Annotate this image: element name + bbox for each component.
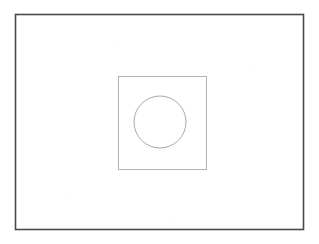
figure-canvas bbox=[0, 0, 319, 244]
geometric-figure bbox=[0, 0, 319, 244]
inner-circle-shape bbox=[134, 96, 186, 148]
inner-square-shape bbox=[119, 77, 207, 170]
outer-rectangle-shape bbox=[16, 15, 304, 230]
